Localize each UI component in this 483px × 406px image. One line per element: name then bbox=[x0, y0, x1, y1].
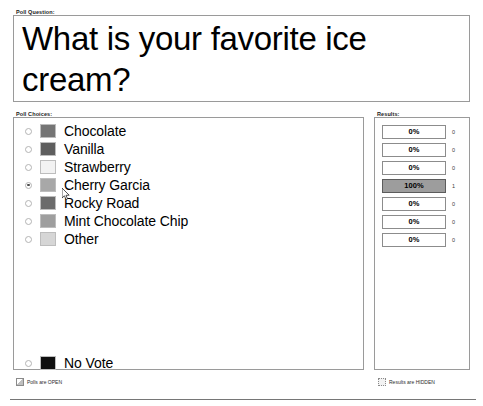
radio-choice-6[interactable] bbox=[25, 236, 32, 243]
result-row-0: 0%0 bbox=[382, 124, 470, 139]
choice-row-0[interactable]: Chocolate bbox=[14, 122, 365, 140]
status-results: Results are HIDDEN bbox=[378, 378, 435, 386]
result-percent-4: 0% bbox=[408, 199, 419, 208]
result-bar-0: 0% bbox=[382, 125, 446, 139]
radio-choice-4[interactable] bbox=[25, 200, 32, 207]
choice-label-5: Mint Chocolate Chip bbox=[64, 213, 188, 229]
color-swatch-choice-3 bbox=[40, 178, 56, 192]
result-count-0: 0 bbox=[452, 129, 455, 135]
choice-label-0: Chocolate bbox=[64, 123, 126, 139]
polls-open-icon bbox=[16, 378, 24, 386]
choice-label-4: Rocky Road bbox=[64, 195, 139, 211]
choice-row-5[interactable]: Mint Chocolate Chip bbox=[14, 212, 365, 230]
result-percent-1: 0% bbox=[408, 145, 419, 154]
result-row-1: 0%0 bbox=[382, 142, 470, 157]
bottom-divider bbox=[10, 399, 476, 400]
result-bar-1: 0% bbox=[382, 143, 446, 157]
status-results-text: Results are HIDDEN bbox=[389, 379, 435, 385]
result-count-6: 0 bbox=[452, 237, 455, 243]
result-bar-4: 0% bbox=[382, 197, 446, 211]
radio-choice-0[interactable] bbox=[25, 128, 32, 135]
result-percent-0: 0% bbox=[408, 127, 419, 136]
result-row-5: 0%0 bbox=[382, 214, 470, 229]
poll-question-group-label: Poll Question: bbox=[14, 9, 57, 15]
color-swatch-choice-4 bbox=[40, 196, 56, 210]
choice-label-6: Other bbox=[64, 231, 99, 247]
poll-choices-group-label: Poll Choices: bbox=[14, 111, 54, 117]
choice-row-3[interactable]: Cherry Garcia bbox=[14, 176, 365, 194]
poll-question-text: What is your favorite ice cream? bbox=[22, 18, 462, 100]
choice-label-3: Cherry Garcia bbox=[64, 177, 150, 193]
result-count-5: 0 bbox=[452, 219, 455, 225]
poll-question-box: What is your favorite ice cream? bbox=[13, 15, 470, 102]
color-swatch-choice-1 bbox=[40, 142, 56, 156]
result-row-3: 100%1 bbox=[382, 178, 470, 193]
choice-label-no-vote: No Vote bbox=[64, 355, 113, 371]
radio-choice-5[interactable] bbox=[25, 218, 32, 225]
color-swatch-choice-0 bbox=[40, 124, 56, 138]
result-count-2: 0 bbox=[452, 165, 455, 171]
result-row-2: 0%0 bbox=[382, 160, 470, 175]
result-percent-3: 100% bbox=[404, 181, 424, 190]
choice-row-2[interactable]: Strawberry bbox=[14, 158, 365, 176]
choice-row-no-vote[interactable]: No Vote bbox=[14, 354, 365, 372]
color-swatch-choice-5 bbox=[40, 214, 56, 228]
choice-row-1[interactable]: Vanilla bbox=[14, 140, 365, 158]
results-box: 0%00%00%0100%10%00%00%0 bbox=[374, 117, 470, 370]
radio-choice-3[interactable] bbox=[25, 182, 32, 189]
status-polls: Polls are OPEN bbox=[16, 378, 62, 386]
result-bar-6: 0% bbox=[382, 233, 446, 247]
result-count-3: 1 bbox=[452, 183, 455, 189]
color-swatch-choice-2 bbox=[40, 160, 56, 174]
choice-label-1: Vanilla bbox=[64, 141, 104, 157]
result-bar-3: 100% bbox=[382, 179, 446, 193]
result-count-1: 0 bbox=[452, 147, 455, 153]
result-count-4: 0 bbox=[452, 201, 455, 207]
result-percent-5: 0% bbox=[408, 217, 419, 226]
radio-choice-1[interactable] bbox=[25, 146, 32, 153]
result-bar-5: 0% bbox=[382, 215, 446, 229]
choice-label-2: Strawberry bbox=[64, 159, 131, 175]
result-bar-2: 0% bbox=[382, 161, 446, 175]
result-row-4: 0%0 bbox=[382, 196, 470, 211]
radio-choice-2[interactable] bbox=[25, 164, 32, 171]
result-percent-6: 0% bbox=[408, 235, 419, 244]
color-swatch-no-vote bbox=[40, 356, 56, 370]
radio-no-vote[interactable] bbox=[25, 360, 32, 367]
status-polls-text: Polls are OPEN bbox=[27, 379, 62, 385]
poll-choices-box: ChocolateVanillaStrawberryCherry GarciaR… bbox=[13, 117, 364, 370]
results-group-label: Results: bbox=[375, 111, 402, 117]
results-hidden-icon bbox=[378, 378, 386, 386]
result-percent-2: 0% bbox=[408, 163, 419, 172]
color-swatch-choice-6 bbox=[40, 232, 56, 246]
choice-row-4[interactable]: Rocky Road bbox=[14, 194, 365, 212]
choice-row-6[interactable]: Other bbox=[14, 230, 365, 248]
poll-application-window: Poll Question: What is your favorite ice… bbox=[0, 0, 483, 406]
result-row-6: 0%0 bbox=[382, 232, 470, 247]
